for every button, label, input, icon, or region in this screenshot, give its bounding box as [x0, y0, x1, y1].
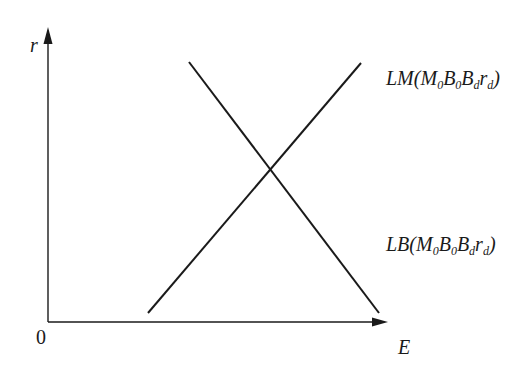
lb-curve: [189, 62, 379, 313]
lb-param-1: M: [416, 233, 433, 255]
origin-label: 0: [36, 327, 46, 347]
lm-param-3: B: [461, 67, 473, 89]
lb-label-suffix: ): [489, 233, 496, 255]
lb-label-prefix: LB(: [386, 233, 416, 255]
y-axis-arrow-icon: [44, 27, 53, 44]
lb-param-2: B: [439, 233, 451, 255]
lm-label-prefix: LM(: [386, 67, 420, 89]
lb-param-4: r: [475, 233, 483, 255]
x-axis-arrow-icon: [372, 318, 388, 327]
lm-curve-label: LM(M0B0Bdrd): [386, 68, 500, 88]
lm-curve: [148, 63, 361, 313]
x-axis-label: E: [398, 337, 410, 357]
lm-param-1: M: [420, 67, 437, 89]
lm-label-suffix: ): [493, 67, 500, 89]
lb-curve-label: LB(M0B0Bdrd): [386, 234, 496, 254]
lb-param-3: B: [457, 233, 469, 255]
lm-lb-diagram: [0, 0, 520, 369]
lm-param-2: B: [443, 67, 455, 89]
y-axis-label: r: [30, 35, 38, 55]
